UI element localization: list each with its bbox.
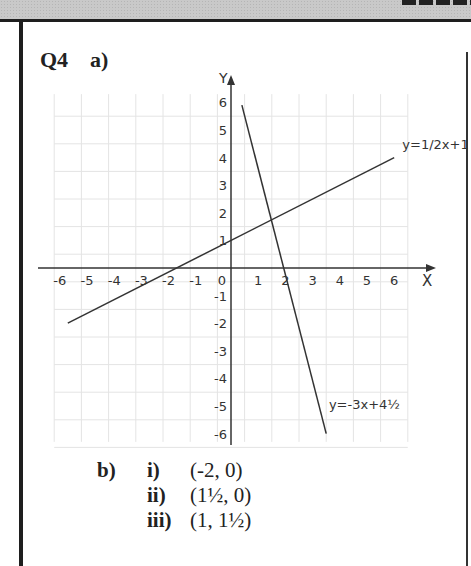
x-tick-label: -4 <box>108 273 121 288</box>
answer-value: (-2, 0) <box>190 458 242 483</box>
tick-labels: -6-5-4-3-2-10123456X-6-5-4-3-2-1123456Y <box>53 70 432 442</box>
answer-value: (1, 1½) <box>190 508 251 533</box>
plot-line <box>242 105 326 433</box>
x-tick-label: 6 <box>390 273 398 288</box>
answer-row: ii)(1½, 0) <box>147 483 251 508</box>
answer-label: ii) <box>147 483 190 508</box>
y-tick-label: -4 <box>214 371 227 386</box>
x-tick-label: 3 <box>308 273 316 288</box>
x-tick-label: 5 <box>363 273 371 288</box>
line-annotations: y=1/2x+1y=-3x+4½ <box>329 137 469 411</box>
answer-row: iii)(1, 1½) <box>147 508 251 533</box>
x-tick-label: -5 <box>81 273 94 288</box>
y-tick-label: 2 <box>219 206 227 221</box>
y-tick-label: -3 <box>214 344 227 359</box>
x-axis-label: X <box>422 272 432 290</box>
part-b-label: b) <box>97 458 116 483</box>
axes <box>38 75 436 445</box>
x-tick-label: 0 <box>218 273 226 288</box>
line-label: y=-3x+4½ <box>329 397 400 412</box>
answer-label: iii) <box>147 508 190 533</box>
y-axis-label: Y <box>218 70 228 86</box>
y-tick-label: 6 <box>219 95 227 110</box>
x-tick-label: 4 <box>336 273 344 288</box>
line-label: y=1/2x+1 <box>402 137 468 152</box>
answer-value: (1½, 0) <box>190 483 251 508</box>
y-tick-label: -5 <box>214 399 227 414</box>
x-tick-label: -1 <box>189 273 202 288</box>
y-tick-label: -6 <box>214 427 227 442</box>
y-axis-arrow-icon <box>227 75 235 85</box>
answer-row: i)(-2, 0) <box>147 458 242 483</box>
y-tick-label: 5 <box>219 123 227 138</box>
x-axis-arrow-icon <box>426 264 436 272</box>
y-tick-label: -2 <box>214 316 227 331</box>
y-tick-label: -1 <box>214 289 227 304</box>
answer-label: i) <box>147 458 190 483</box>
x-tick-label: -2 <box>162 273 175 288</box>
x-tick-label: -6 <box>53 273 66 288</box>
y-tick-label: 3 <box>219 178 227 193</box>
y-tick-label: 4 <box>219 151 227 166</box>
x-tick-label: 1 <box>254 273 262 288</box>
